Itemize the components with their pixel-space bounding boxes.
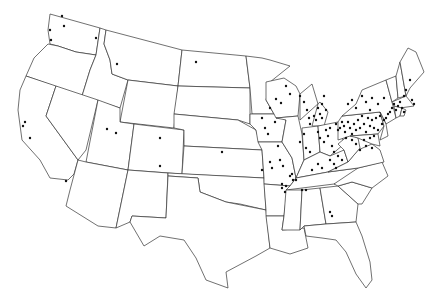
map-point [409,79,411,81]
map-point [329,127,331,129]
map-point [395,109,397,111]
map-point [333,151,335,153]
map-point [115,132,117,134]
state-nd [178,50,250,88]
map-point [347,103,349,105]
state-wy [120,80,178,128]
map-point [317,163,319,165]
map-point [303,101,305,103]
map-point [391,107,393,109]
map-point [411,99,413,101]
map-point [264,127,266,129]
map-point [365,131,367,133]
map-point [371,97,373,99]
map-point [337,155,339,157]
map-point [383,97,385,99]
map-point [377,129,379,131]
map-point [393,103,395,105]
map-point [341,121,343,123]
map-point [301,189,303,191]
map-point [359,127,361,129]
map-point [325,129,327,131]
map-point [267,133,269,135]
map-point [385,117,387,119]
map-point [282,165,284,167]
map-point [344,131,346,133]
map-point [306,109,308,111]
map-point [299,141,301,143]
map-point [331,215,333,217]
map-point [361,115,363,117]
map-point [281,183,283,185]
map-point [22,125,24,127]
map-point [337,129,339,131]
map-point [195,61,197,63]
map-point [403,111,405,113]
state-co [128,124,184,174]
map-point [351,99,353,101]
map-point [315,119,317,121]
map-point [321,167,323,169]
map-point [269,107,271,109]
us-map [0,0,442,306]
map-point [349,127,351,129]
map-point [63,25,65,27]
map-point [321,117,323,119]
map-point [305,189,307,191]
map-point [355,107,357,109]
map-point [24,121,26,123]
map-point [369,125,371,127]
map-point [321,103,323,105]
map-point [359,149,361,151]
map-point [373,127,375,129]
map-point [159,137,161,139]
map-point [275,98,277,100]
map-point [277,145,279,147]
map-point [363,139,365,141]
map-point [367,117,369,119]
map-point [405,89,407,91]
map-point [289,175,291,177]
map-point [106,128,108,130]
map-point [303,133,305,135]
map-point [373,135,375,137]
map-point [261,117,263,119]
map-point [387,113,389,115]
map-point [379,115,381,117]
map-point [353,123,355,125]
map-point [329,159,331,161]
map-point [345,137,347,139]
map-point [159,165,161,167]
map-point [291,173,293,175]
map-point [285,185,287,187]
map-point [309,123,311,125]
map-point [309,151,311,153]
map-point [355,129,357,131]
map-point [389,111,391,113]
map-point [401,107,403,109]
map-point [221,151,223,153]
map-point [357,119,359,121]
map-point [317,131,319,133]
map-point [371,147,373,149]
map-point [355,143,357,145]
map-point [351,139,353,141]
map-point [285,85,287,87]
map-point [369,109,371,111]
map-point [299,95,301,97]
map-point [319,137,321,139]
map-point [343,125,345,127]
map-point [339,127,341,129]
map-point [363,123,365,125]
map-point [335,123,337,125]
map-point [29,137,31,139]
map-point [305,147,307,149]
map-point [116,63,118,65]
map-point [49,29,51,31]
map-point [269,161,271,163]
map-point [369,137,371,139]
map-point [281,187,283,189]
map-point [289,93,291,95]
map-point [261,169,263,171]
map-point [361,95,363,97]
